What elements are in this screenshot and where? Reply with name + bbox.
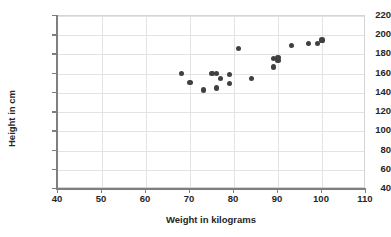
x-tick-mark — [189, 189, 190, 193]
x-tick-mark — [365, 189, 366, 193]
x-axis-line — [56, 188, 366, 190]
x-axis-title: Weight in kilograms — [57, 214, 365, 225]
data-point — [249, 76, 254, 81]
gridline-horizontal — [58, 16, 364, 17]
plot-area — [57, 15, 365, 188]
gridline-vertical — [146, 16, 147, 187]
data-point — [271, 64, 276, 69]
x-tick-mark — [145, 189, 146, 193]
data-point — [218, 76, 223, 81]
data-point — [319, 37, 324, 42]
gridline-horizontal — [58, 93, 364, 94]
gridline-vertical — [234, 16, 235, 187]
data-point — [306, 41, 311, 46]
data-point — [187, 80, 192, 85]
x-tick-mark — [277, 189, 278, 193]
y-axis-line — [56, 15, 58, 189]
gridline-vertical — [102, 16, 103, 187]
x-tick-label: 90 — [257, 194, 297, 204]
x-tick-mark — [233, 189, 234, 193]
x-tick-label: 70 — [169, 194, 209, 204]
data-point — [289, 43, 294, 48]
x-tick-label: 80 — [213, 194, 253, 204]
scatter-chart: Height in cm 406080100120140160180200220… — [0, 0, 391, 237]
x-tick-label: 100 — [301, 194, 341, 204]
gridline-vertical — [190, 16, 191, 187]
data-point — [201, 87, 206, 92]
data-point — [179, 71, 184, 76]
y-axis-title: Height in cm — [0, 0, 22, 237]
gridline-horizontal — [58, 131, 364, 132]
gridline-horizontal — [58, 112, 364, 113]
data-point — [227, 81, 232, 86]
gridline-horizontal — [58, 54, 364, 55]
gridline-horizontal — [58, 35, 364, 36]
x-tick-label: 40 — [37, 194, 77, 204]
gridline-horizontal — [58, 151, 364, 152]
x-tick-mark — [101, 189, 102, 193]
gridline-horizontal — [58, 170, 364, 171]
data-point — [214, 85, 219, 90]
x-tick-mark — [57, 189, 58, 193]
data-point — [275, 58, 280, 63]
data-point — [227, 72, 232, 77]
x-tick-label: 50 — [81, 194, 121, 204]
x-tick-label: 60 — [125, 194, 165, 204]
gridline-vertical — [278, 16, 279, 187]
data-point — [236, 46, 241, 51]
x-tick-label: 110 — [345, 194, 385, 204]
x-tick-mark — [321, 189, 322, 193]
